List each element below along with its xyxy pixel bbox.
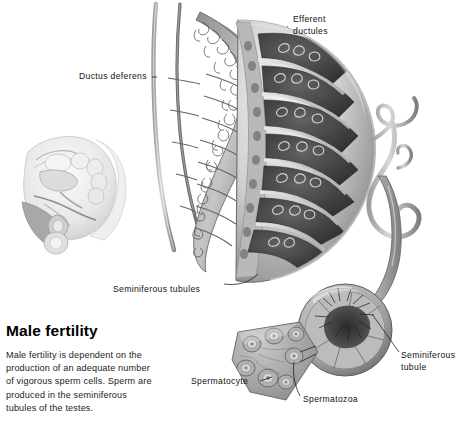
page-title: Male fertility: [6, 322, 98, 340]
label-spermatocyte: Spermatocyte: [191, 376, 248, 388]
label-efferent-ductules: Efferent ductules: [293, 14, 355, 37]
label-efferent-ductules-line2: ductules: [293, 26, 328, 36]
pelvic-anatomy-inset: [22, 137, 126, 254]
label-seminiferous-tubules: Seminiferous tubules: [113, 284, 200, 296]
label-seminiferous-tubule-line1: Seminiferous: [401, 350, 455, 360]
label-seminiferous-tubule: Seminiferous tubule: [401, 350, 465, 373]
label-seminiferous-tubule-line2: tubule: [401, 362, 427, 372]
ductus-deferens-illustration: [153, 4, 202, 250]
label-efferent-ductules-line1: Efferent: [293, 14, 326, 24]
seminiferous-tubule-cutaway: [298, 284, 392, 376]
testis-cross-section: [236, 20, 375, 282]
label-ductus-deferens: Ductus deferens: [79, 71, 147, 83]
label-spermatozoa: Spermatozoa: [303, 394, 358, 406]
body-paragraph: Male fertility is dependent on the produ…: [6, 349, 158, 415]
testis-tissue-wedge: [232, 322, 318, 400]
